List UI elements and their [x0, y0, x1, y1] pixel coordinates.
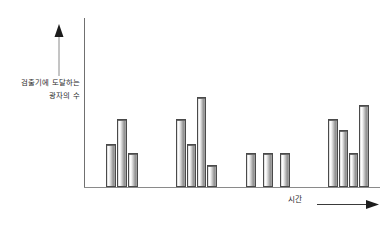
bar-cap [264, 154, 272, 155]
bar-cap [129, 154, 137, 155]
bar [197, 97, 206, 187]
bar-cap [360, 106, 368, 107]
bar [207, 165, 217, 187]
x-axis-line [84, 187, 380, 188]
bar-cap [118, 120, 126, 121]
bar [359, 105, 369, 187]
bar [339, 130, 348, 187]
arrow-right-icon [317, 195, 379, 206]
bar [128, 153, 138, 187]
bar [117, 119, 127, 187]
bar-cap [198, 98, 205, 99]
bar-cap [177, 120, 185, 121]
x-axis-label: 시간 [288, 193, 302, 204]
bar-cap [208, 166, 216, 167]
bar-cap [188, 145, 195, 146]
y-axis-line [84, 18, 85, 188]
bar-cap [340, 131, 347, 132]
bar [328, 119, 338, 187]
bar [187, 144, 196, 187]
y-axis-label: 검출기에 도달하는 광자의 수 [8, 77, 80, 102]
arrow-up-icon [52, 24, 66, 76]
bar [280, 153, 290, 187]
bar-cap [350, 154, 357, 155]
bar [349, 153, 358, 187]
photon-count-bar-chart: 검출기에 도달하는 광자의 수 시간 [0, 0, 392, 225]
y-axis-label-line-2: 광자의 수 [8, 90, 80, 103]
bar [246, 153, 256, 187]
bar-cap [281, 154, 289, 155]
bar [176, 119, 186, 187]
bar-cap [107, 145, 115, 146]
bar [263, 153, 273, 187]
bar-cap [329, 120, 337, 121]
bar-cap [247, 154, 255, 155]
y-axis-label-line-1: 검출기에 도달하는 [8, 77, 80, 90]
bar [106, 144, 116, 187]
